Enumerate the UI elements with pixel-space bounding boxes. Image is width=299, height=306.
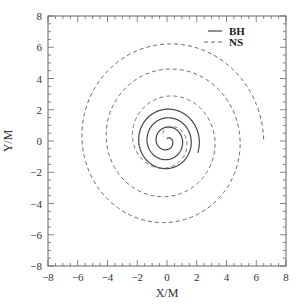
y-tick-label: 4 (37, 73, 43, 85)
x-tick-label: 8 (283, 271, 289, 283)
y-tick-label: 2 (37, 104, 43, 116)
y-tick-label: −8 (30, 260, 42, 272)
x-axis-label: X/M (156, 286, 179, 300)
x-tick-label: −8 (42, 271, 54, 283)
y-tick-label: −2 (30, 166, 42, 178)
y-tick-label: 8 (37, 10, 43, 22)
legend-ns-label: NS (229, 36, 243, 48)
x-tick-label: −6 (72, 271, 84, 283)
x-tick-label: 4 (224, 271, 230, 283)
x-tick-label: 6 (254, 271, 260, 283)
y-tick-label: −4 (30, 198, 42, 210)
x-tick-label: 0 (164, 271, 170, 283)
y-tick-label: −6 (30, 229, 42, 241)
x-tick-label: 2 (194, 271, 200, 283)
orbit-chart: −8−6−4−202468−8−6−4−202468 BH NS X/M Y/M (0, 0, 299, 306)
x-tick-label: −2 (131, 271, 143, 283)
y-axis-label: Y/M (1, 129, 15, 152)
y-tick-label: 6 (37, 41, 43, 53)
x-tick-label: −4 (102, 271, 114, 283)
y-tick-label: 0 (37, 135, 43, 147)
